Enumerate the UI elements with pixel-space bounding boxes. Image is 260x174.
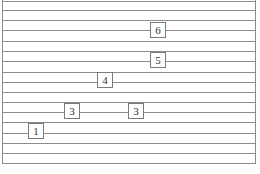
number-box-1: 1 <box>28 123 44 139</box>
rule-line <box>2 30 256 31</box>
rule-line <box>2 20 256 21</box>
rule-line <box>2 51 256 52</box>
rule-line <box>2 153 256 154</box>
number-box-5: 5 <box>150 52 166 68</box>
number-box-3-right: 3 <box>128 103 144 119</box>
number-box-4: 4 <box>97 72 113 88</box>
number-box-6: 6 <box>150 22 166 38</box>
rule-line <box>2 82 256 83</box>
rule-line <box>2 92 256 93</box>
rule-line <box>2 61 256 62</box>
rule-line <box>2 41 256 42</box>
rule-line <box>2 72 256 73</box>
rule-line <box>2 1 256 2</box>
rule-line <box>2 143 256 144</box>
number-box-3-left: 3 <box>64 103 80 119</box>
rule-line <box>2 10 256 11</box>
